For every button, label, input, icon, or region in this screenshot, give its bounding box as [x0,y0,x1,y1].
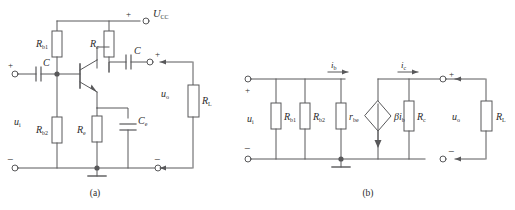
resistor-rbe-b [336,103,346,129]
ui-minus-a: − [7,153,13,165]
caption-b: (b) [362,188,373,199]
label-beta-ib: βib [393,111,405,123]
ui-minus-b: − [244,142,250,154]
label-ucc: UCC [153,8,169,20]
transistor-collector-lead [80,60,97,70]
label-rbe-b: rbe [349,111,359,123]
input-terminal-a-plus [12,71,18,77]
ucc-plus-sign: + [126,9,131,19]
ui-plus-a: + [8,60,13,70]
label-uo-a: uo [161,88,169,100]
resistor-rc [104,31,114,57]
resistor-rc-b [404,101,414,131]
label-rc-b: Rc [416,111,426,123]
src-arrow-head [375,140,382,148]
resistor-rb2 [52,117,62,143]
resistor-rl-b [481,101,492,131]
label-rb1-a: Rb1 [35,38,48,50]
label-rc-a: Rc [89,38,99,50]
label-rb1-b: Rb1 [283,111,296,123]
output-terminal-b-plus [440,76,446,82]
label-rb2-b: Rb2 [312,111,325,123]
label-rb2-a: Rb2 [35,124,48,136]
label-rl-b: RL [495,111,506,123]
input-terminal-b-minus [245,156,251,162]
uo-minus-b: − [448,145,454,157]
label-ce-a: Ce [138,115,148,127]
label-ui-a: ui [14,116,21,128]
label-c-out-a: C [134,45,141,56]
circuit-figure: UCC + Rb1 Rc Rb2 Re RL C C Ce ui + − uo … [0,0,515,210]
uo-plus-b: + [449,69,454,79]
resistor-rl-a [188,85,199,117]
resistor-rb1 [52,31,62,57]
output-terminal-b-minus [440,156,446,162]
label-ui-b: ui [247,113,254,125]
figure-container: UCC + Rb1 Rc Rb2 Re RL C C Ce ui + − uo … [0,0,515,210]
uo-plus-a: + [155,49,160,59]
label-ic: ic [401,60,407,71]
label-c-in-a: C [43,57,50,68]
input-terminal-a-minus [12,165,18,171]
label-uo-b: uo [452,111,460,123]
uo-minus-a: − [154,153,160,165]
ucc-terminal [143,18,149,24]
resistor-rb2-b [300,103,310,129]
label-rl-a: RL [201,95,212,107]
output-terminal-a-plus [147,59,153,65]
resistor-rb1-b [271,103,281,129]
collector-wire [109,62,126,72]
input-terminal-b-plus [245,76,251,82]
ui-plus-b: + [245,85,250,95]
resistor-re [92,116,102,142]
caption-a: (a) [90,188,101,199]
label-ib: ib [331,60,337,71]
transistor-emitter-arrow [91,85,98,93]
label-re-a: Re [76,124,86,136]
